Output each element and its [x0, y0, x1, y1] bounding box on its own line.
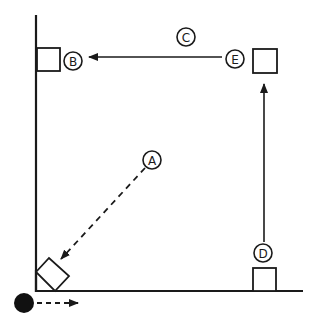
field-diagram: B C E D A — [0, 0, 320, 326]
svg-text:B: B — [69, 55, 77, 69]
svg-text:C: C — [182, 31, 190, 45]
svg-text:D: D — [258, 247, 267, 261]
label-c: C — [177, 28, 195, 46]
label-b: B — [64, 52, 82, 70]
svg-text:E: E — [231, 53, 239, 67]
ball-icon — [14, 293, 34, 313]
arrow-a-to-corner — [61, 168, 145, 259]
label-a: A — [143, 151, 161, 169]
label-e: E — [226, 50, 244, 68]
square-top-right — [253, 49, 277, 73]
label-d: D — [254, 244, 272, 262]
square-bottom-right — [253, 268, 276, 291]
svg-text:A: A — [148, 154, 157, 168]
square-bottom-left-rotated — [36, 258, 69, 291]
square-left-wall — [37, 48, 60, 71]
